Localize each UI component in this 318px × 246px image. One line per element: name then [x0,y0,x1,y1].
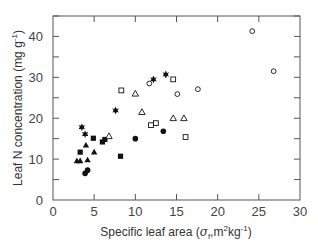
filled-triangle-marker [83,142,89,148]
y-tick-label: 10 [29,152,43,167]
y-tick-label: 30 [29,70,43,85]
filled-square-marker [91,136,96,141]
filled-triangle-marker [84,157,90,163]
open-triangle-marker [106,133,112,139]
filled-square-marker [118,154,123,159]
open-triangle-marker [139,109,145,115]
asterisk-marker [79,124,85,131]
y-tick-label: 40 [29,29,43,44]
open-square-marker [149,123,154,128]
x-axis-title: Specific leaf area (σf,m2kg-1) [100,224,251,241]
x-tick-label: 10 [128,204,142,219]
x-tick-label: 5 [91,204,98,219]
x-tick-label: 0 [49,204,56,219]
filled-triangle-marker [91,149,97,155]
x-tick-label: 20 [210,204,224,219]
open-triangle-marker [132,90,138,96]
y-axis-title: Leaf N concentration (mg g-1) [10,30,25,186]
x-tick-label: 25 [252,204,266,219]
open-triangle-marker [181,115,187,121]
plot-frame [53,16,300,200]
x-tick-label: 15 [169,204,183,219]
filled-circle-marker [85,167,91,173]
asterisk-marker [82,131,88,138]
open-circle-marker [147,81,152,86]
y-tick-label: 20 [29,111,43,126]
x-tick-labels: 051015202530 [49,204,307,219]
x-tick-label: 30 [293,204,307,219]
open-square-marker [171,77,176,82]
open-triangle-marker [170,115,176,121]
data-points [74,29,276,176]
open-circle-marker [271,69,276,74]
open-square-marker [183,135,188,140]
asterisk-marker [163,71,169,78]
open-circle-marker [196,87,201,92]
open-circle-marker [250,29,255,34]
open-circle-marker [175,92,180,97]
open-square-marker [154,121,159,126]
filled-square-marker [78,150,83,155]
filled-circle-marker [133,136,139,142]
axis-ticks [53,16,300,200]
filled-circle-marker [161,129,167,135]
open-square-marker [119,88,124,93]
asterisk-marker [113,107,119,114]
y-tick-labels: 010203040 [29,29,43,208]
y-tick-label: 0 [36,193,43,208]
scatter-chart: 051015202530 010203040 Specific leaf are… [0,0,318,246]
plot-border [53,16,300,200]
